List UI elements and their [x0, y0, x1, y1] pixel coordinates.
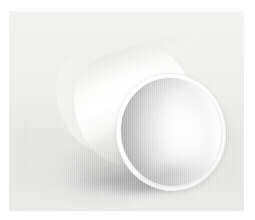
cylinder-object: [9, 11, 244, 211]
photograph: [9, 11, 244, 211]
image-canvas: [0, 0, 255, 220]
